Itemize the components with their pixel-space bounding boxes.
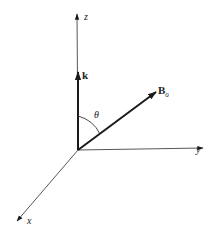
x-axis-label: x [26, 215, 32, 226]
theta-label: θ [94, 109, 99, 120]
k-vector-label: k [82, 69, 89, 81]
x-axis [17, 150, 78, 221]
z-axis-label: z [83, 11, 88, 22]
y-axis-label: y [195, 144, 201, 155]
b0-vector-label: B0 [158, 84, 169, 99]
coordinate-diagram: z y x k B0 θ [0, 0, 211, 235]
y-axis [78, 148, 203, 150]
